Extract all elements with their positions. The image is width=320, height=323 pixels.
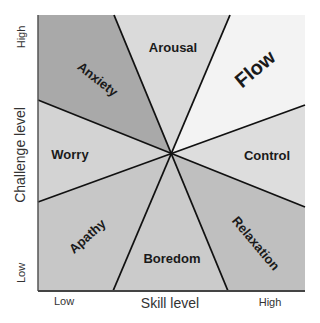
- label-boredom: Boredom: [143, 251, 200, 266]
- x-axis-low: Low: [54, 295, 74, 307]
- label-worry: Worry: [51, 147, 89, 162]
- y-axis-high: High: [15, 26, 27, 49]
- y-axis-title: Challenge level: [12, 107, 28, 203]
- x-axis-title: Skill level: [141, 295, 199, 311]
- label-control: Control: [244, 148, 290, 163]
- y-axis-low: Low: [15, 263, 27, 283]
- label-arousal: Arousal: [149, 40, 197, 55]
- flow-model-diagram: Anxiety Arousal Flow Worry Control Apath…: [0, 0, 320, 323]
- x-axis-high: High: [259, 296, 282, 308]
